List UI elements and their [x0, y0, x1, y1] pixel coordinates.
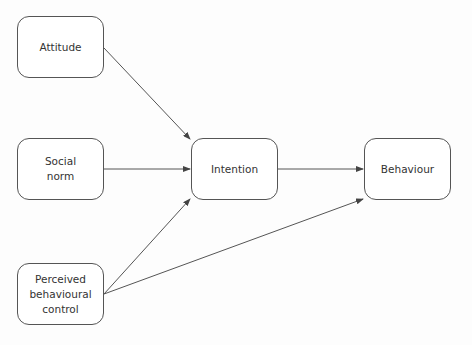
arrow-pbc-to-behaviour	[104, 199, 363, 294]
node-intention: Intention	[191, 138, 278, 200]
node-perceived-behavioural-control: Perceived behavioural control	[17, 263, 104, 325]
node-attitude: Attitude	[17, 16, 104, 78]
node-social-norm: Social norm	[17, 138, 104, 200]
diagram-canvas: Attitude Social norm Perceived behaviour…	[0, 0, 472, 345]
arrow-pbc-to-intention	[104, 199, 190, 294]
arrow-attitude-to-intention	[104, 48, 190, 139]
node-behaviour: Behaviour	[364, 138, 451, 200]
